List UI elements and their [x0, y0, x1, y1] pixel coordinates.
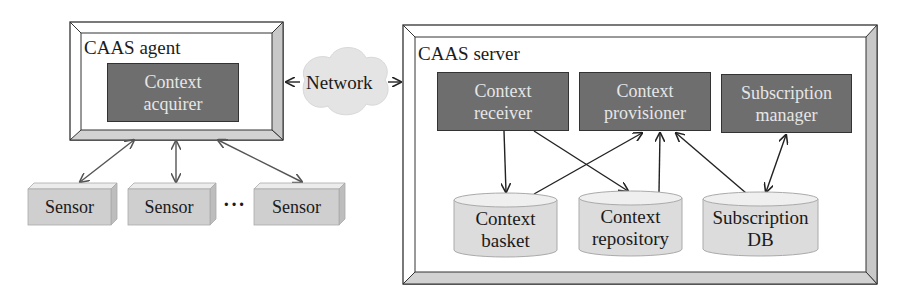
- subscription-manager-line1: Subscription: [741, 82, 832, 104]
- context-basket-line2: basket: [481, 230, 530, 252]
- sensor-ellipsis: ···: [223, 193, 246, 216]
- network-label: Network: [306, 72, 372, 94]
- subscription-db-line1: Subscription: [712, 207, 808, 229]
- sensor-1-label: Sensor: [28, 189, 111, 225]
- context-receiver-box: Context receiver: [437, 72, 569, 131]
- context-receiver-line1: Context: [475, 80, 532, 102]
- context-acquirer-line1: Context: [145, 71, 202, 93]
- sensor-3-label: Sensor: [254, 189, 339, 225]
- arrow-repository-to-provisioner: [659, 133, 660, 192]
- caas-server-title: CAAS server: [418, 44, 520, 63]
- context-provisioner-line1: Context: [617, 80, 674, 102]
- context-repository-label: Context repository: [579, 205, 682, 251]
- context-basket-label: Context basket: [454, 207, 557, 253]
- context-basket-line1: Context: [475, 208, 535, 230]
- subscription-db-line2: DB: [747, 229, 773, 251]
- subscription-manager-box: Subscription manager: [721, 74, 852, 133]
- context-acquirer-box: Context acquirer: [107, 63, 239, 122]
- subscription-manager-line2: manager: [756, 104, 818, 126]
- arrow-agent-sensor-1: [80, 140, 134, 182]
- subscription-db-label: Subscription DB: [703, 206, 818, 252]
- arrow-agent-sensor-3: [218, 140, 302, 182]
- context-repository-line2: repository: [592, 228, 669, 250]
- context-repository-line1: Context: [600, 206, 660, 228]
- caas-agent-title: CAAS agent: [84, 38, 181, 57]
- context-provisioner-box: Context provisioner: [579, 72, 711, 131]
- sensor-2-label: Sensor: [128, 189, 210, 225]
- context-provisioner-line2: provisioner: [604, 102, 686, 124]
- context-receiver-line2: receiver: [474, 102, 532, 124]
- context-acquirer-line2: acquirer: [144, 93, 203, 115]
